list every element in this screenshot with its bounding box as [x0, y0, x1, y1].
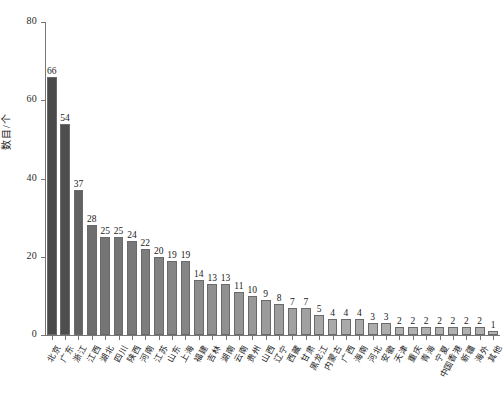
- bar-item[interactable]: 7: [286, 22, 299, 335]
- x-axis-labels: 北京广东浙江江西湖北四川陕西河南江苏山东上海福建吉林湖南云南贵州山西辽宁西藏甘肃…: [45, 341, 500, 405]
- bar[interactable]: [368, 323, 378, 335]
- x-tick-mark: [105, 336, 106, 340]
- x-tick: [393, 336, 406, 340]
- bar[interactable]: [207, 284, 217, 335]
- x-tick-mark: [226, 336, 227, 340]
- bar[interactable]: [261, 300, 271, 335]
- bar-value-label: 2: [477, 316, 482, 326]
- bar[interactable]: [421, 327, 431, 335]
- x-tick: [179, 336, 192, 340]
- x-tick: [326, 336, 339, 340]
- bar[interactable]: [274, 304, 284, 335]
- bar-item[interactable]: 25: [99, 22, 112, 335]
- x-label-cell: 广东: [58, 341, 71, 405]
- bar[interactable]: [221, 284, 231, 335]
- x-tick: [246, 336, 259, 340]
- bar[interactable]: [74, 190, 84, 335]
- x-axis-ticks: [45, 336, 500, 340]
- bar-item[interactable]: 19: [165, 22, 178, 335]
- bar-item[interactable]: 2: [393, 22, 406, 335]
- bar-item[interactable]: 10: [246, 22, 259, 335]
- bar[interactable]: [87, 225, 97, 335]
- x-tick: [406, 336, 419, 340]
- bar-item[interactable]: 2: [473, 22, 486, 335]
- bar-item[interactable]: 2: [406, 22, 419, 335]
- bar-item[interactable]: 24: [125, 22, 138, 335]
- bar-item[interactable]: 9: [259, 22, 272, 335]
- bar[interactable]: [475, 327, 485, 335]
- bar[interactable]: [301, 308, 311, 335]
- bar-item[interactable]: 66: [45, 22, 58, 335]
- x-tick: [313, 336, 326, 340]
- bar[interactable]: [47, 77, 57, 335]
- x-tick-mark: [145, 336, 146, 340]
- bar[interactable]: [381, 323, 391, 335]
- bar[interactable]: [60, 124, 70, 335]
- bar[interactable]: [408, 327, 418, 335]
- bar[interactable]: [462, 327, 472, 335]
- bar-item[interactable]: 4: [339, 22, 352, 335]
- bar[interactable]: [234, 292, 244, 335]
- bar[interactable]: [355, 319, 365, 335]
- x-label-cell: 山东: [165, 341, 178, 405]
- bar[interactable]: [127, 241, 137, 335]
- bar-item[interactable]: 3: [379, 22, 392, 335]
- bar-value-label: 5: [317, 304, 322, 314]
- x-tick-mark: [279, 336, 280, 340]
- bar[interactable]: [488, 331, 498, 335]
- y-tick-label: 40: [27, 172, 37, 183]
- bar[interactable]: [100, 237, 110, 335]
- bar[interactable]: [167, 261, 177, 335]
- bar[interactable]: [314, 315, 324, 335]
- bar[interactable]: [448, 327, 458, 335]
- bar-value-label: 2: [397, 316, 402, 326]
- x-label-cell: 河南: [139, 341, 152, 405]
- bar-item[interactable]: 22: [139, 22, 152, 335]
- y-tick-label: 80: [27, 15, 37, 26]
- bar-item[interactable]: 1: [486, 22, 499, 335]
- bar[interactable]: [194, 280, 204, 335]
- bar-item[interactable]: 25: [112, 22, 125, 335]
- x-tick: [379, 336, 392, 340]
- bar[interactable]: [154, 257, 164, 335]
- bar[interactable]: [435, 327, 445, 335]
- bar[interactable]: [141, 249, 151, 335]
- bar-item[interactable]: 5: [313, 22, 326, 335]
- bar[interactable]: [341, 319, 351, 335]
- bar-item[interactable]: 3: [366, 22, 379, 335]
- bar-item[interactable]: 8: [272, 22, 285, 335]
- x-tick: [112, 336, 125, 340]
- bar[interactable]: [248, 296, 258, 335]
- y-tick-label: 60: [27, 93, 37, 104]
- bar-item[interactable]: 4: [326, 22, 339, 335]
- bar-item[interactable]: 13: [219, 22, 232, 335]
- bar-item[interactable]: 4: [353, 22, 366, 335]
- bar-item[interactable]: 2: [433, 22, 446, 335]
- bar-value-label: 10: [248, 285, 258, 295]
- bar[interactable]: [114, 237, 124, 335]
- x-label-cell: 贵州: [246, 341, 259, 405]
- bar-item[interactable]: 2: [460, 22, 473, 335]
- bar-item[interactable]: 2: [446, 22, 459, 335]
- bar[interactable]: [288, 308, 298, 335]
- bar-value-label: 24: [127, 230, 137, 240]
- bar[interactable]: [181, 261, 191, 335]
- bar-item[interactable]: 7: [299, 22, 312, 335]
- bar-item[interactable]: 11: [232, 22, 245, 335]
- bar-item[interactable]: 13: [206, 22, 219, 335]
- x-tick: [152, 336, 165, 340]
- bar[interactable]: [395, 327, 405, 335]
- bar-value-label: 4: [357, 308, 362, 318]
- x-tick: [353, 336, 366, 340]
- bar-item[interactable]: 19: [179, 22, 192, 335]
- y-tick-label: 0: [32, 328, 37, 339]
- bar-item[interactable]: 54: [58, 22, 71, 335]
- bar-item[interactable]: 28: [85, 22, 98, 335]
- x-tick: [286, 336, 299, 340]
- bar-item[interactable]: 37: [72, 22, 85, 335]
- bar-item[interactable]: 14: [192, 22, 205, 335]
- x-tick: [139, 336, 152, 340]
- bar-item[interactable]: 20: [152, 22, 165, 335]
- bar-item[interactable]: 2: [420, 22, 433, 335]
- bar[interactable]: [328, 319, 338, 335]
